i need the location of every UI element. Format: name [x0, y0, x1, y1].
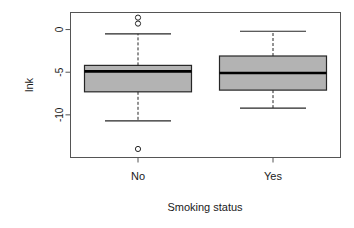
- y-tick-label: 0: [54, 26, 65, 32]
- x-tick-label: Yes: [264, 170, 282, 182]
- box-yes: [220, 31, 327, 108]
- box-no: [85, 15, 192, 152]
- outlier-point: [135, 146, 140, 151]
- x-axis-ticks: [138, 158, 273, 163]
- boxplot-svg: 0-5-10 NoYes lnk Smoking status: [0, 0, 354, 228]
- boxplot-figure: 0-5-10 NoYes lnk Smoking status: [0, 0, 354, 228]
- y-tick-label: -5: [54, 67, 65, 76]
- x-axis-category-labels: NoYes: [131, 170, 282, 182]
- y-axis-ticks: [66, 30, 71, 115]
- box-rect: [85, 65, 192, 91]
- y-axis-tick-labels: 0-5-10: [54, 26, 65, 122]
- box-group: [85, 15, 327, 152]
- outlier-point: [135, 15, 140, 20]
- outlier-point: [135, 21, 140, 26]
- y-axis-title: lnk: [23, 77, 35, 92]
- x-tick-label: No: [131, 170, 145, 182]
- y-tick-label: -10: [54, 107, 65, 122]
- x-axis-title: Smoking status: [167, 201, 243, 213]
